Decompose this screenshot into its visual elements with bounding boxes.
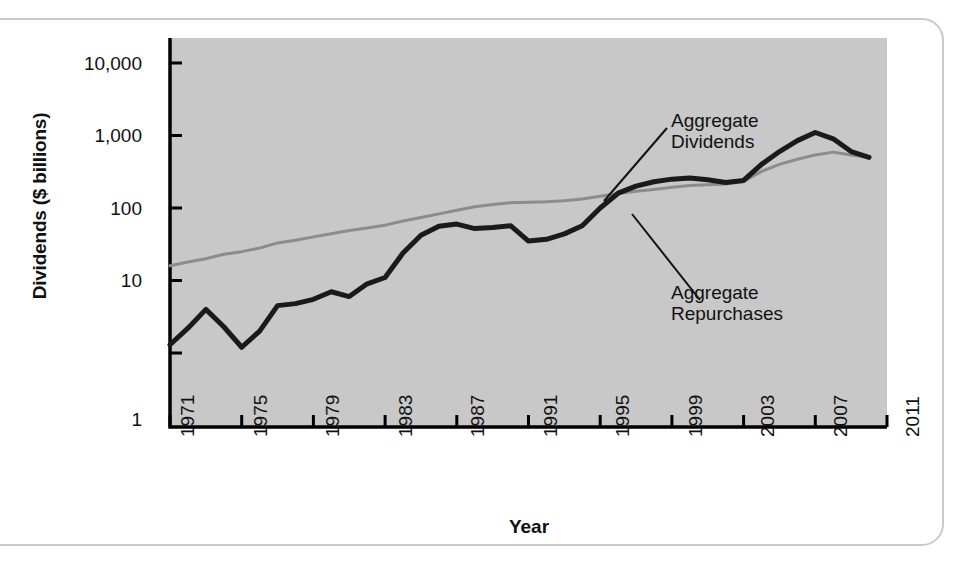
y-tick-label-10000: 10,000	[52, 53, 142, 75]
figure-root: Dividends ($ billions) Year 10,000 1,000…	[0, 0, 980, 562]
annotation-repurchases-line2: Repurchases	[671, 303, 783, 324]
x-tick-label-1999: 1999	[685, 395, 707, 437]
y-tick-label-1000: 1,000	[52, 125, 142, 147]
x-tick-label-2007: 2007	[830, 395, 852, 437]
annotation-dividends-line1: Aggregate	[671, 110, 759, 131]
plot-area-background	[170, 38, 887, 427]
x-tick-label-2003: 2003	[757, 395, 779, 437]
x-tick-label-1991: 1991	[540, 395, 562, 437]
y-axis-title: Dividends ($ billions)	[29, 56, 51, 356]
annotation-dividends-line2: Dividends	[671, 131, 759, 152]
annotation-aggregate-dividends: Aggregate Dividends	[671, 110, 759, 153]
x-tick-label-1979: 1979	[322, 395, 344, 437]
y-tick-label-1: 1	[52, 409, 142, 431]
x-tick-label-1971: 1971	[177, 395, 199, 437]
x-tick-label-1975: 1975	[250, 395, 272, 437]
annotation-aggregate-repurchases: Aggregate Repurchases	[671, 282, 783, 325]
x-tick-label-1987: 1987	[467, 395, 489, 437]
x-tick-label-1995: 1995	[612, 395, 634, 437]
x-tick-label-1983: 1983	[395, 395, 417, 437]
x-axis-title: Year	[170, 516, 888, 538]
y-tick-label-100: 100	[52, 198, 142, 220]
x-tick-label-2011: 2011	[902, 396, 924, 437]
annotation-repurchases-line1: Aggregate	[671, 282, 783, 303]
y-tick-label-10: 10	[52, 270, 142, 292]
chart-canvas	[0, 0, 980, 562]
